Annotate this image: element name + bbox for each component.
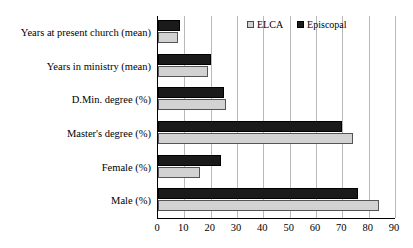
x-tick-label-90: 90 xyxy=(382,222,406,234)
x-tick-label-40: 40 xyxy=(250,222,274,234)
x-tick-label-10: 10 xyxy=(171,222,195,234)
bar-episcopal xyxy=(158,87,224,98)
bar-episcopal xyxy=(158,20,180,31)
bar-group xyxy=(158,50,395,84)
bar-elca xyxy=(158,200,379,211)
y-axis-label: Master's degree (%) xyxy=(0,128,151,140)
bar-group xyxy=(158,83,395,117)
legend-item-episcopal: Episcopal xyxy=(297,19,346,30)
x-tick-label-0: 0 xyxy=(145,222,169,234)
bar-group xyxy=(158,184,395,218)
x-tick-label-50: 50 xyxy=(277,222,301,234)
y-axis-label: Female (%) xyxy=(0,162,151,174)
x-tick-label-20: 20 xyxy=(198,222,222,234)
bar-elca xyxy=(158,99,226,110)
y-axis-label: Male (%) xyxy=(0,195,151,207)
y-axis-label: Years in ministry (mean) xyxy=(0,61,151,73)
bar-elca xyxy=(158,133,353,144)
bar-chart: Years at present church (mean)Years in m… xyxy=(0,0,413,248)
plot-area xyxy=(157,16,395,219)
x-tick-label-70: 70 xyxy=(329,222,353,234)
bar-episcopal xyxy=(158,188,358,199)
bar-group xyxy=(158,117,395,151)
legend-item-elca: ELCA xyxy=(247,19,283,30)
legend-label-elca: ELCA xyxy=(257,19,283,30)
y-axis-label: D.Min. degree (%) xyxy=(0,94,151,106)
gridline-90 xyxy=(395,16,396,218)
bar-group xyxy=(158,151,395,185)
elca-swatch-icon xyxy=(247,21,254,28)
legend: ELCA Episcopal xyxy=(247,19,347,30)
legend-label-episcopal: Episcopal xyxy=(307,19,346,30)
x-tick-label-30: 30 xyxy=(224,222,248,234)
bar-episcopal xyxy=(158,54,211,65)
bar-elca xyxy=(158,32,178,43)
episcopal-swatch-icon xyxy=(297,21,304,28)
y-axis-label: Years at present church (mean) xyxy=(0,27,151,39)
x-tick-label-80: 80 xyxy=(356,222,380,234)
x-tick-label-60: 60 xyxy=(303,222,327,234)
bar-elca xyxy=(158,167,200,178)
bar-episcopal xyxy=(158,121,342,132)
bar-elca xyxy=(158,66,208,77)
bar-episcopal xyxy=(158,155,221,166)
